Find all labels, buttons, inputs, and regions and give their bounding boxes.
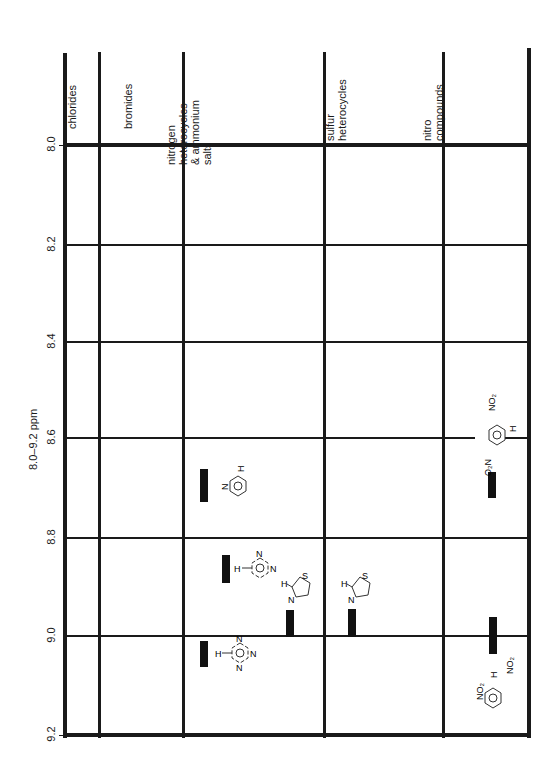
svg-text:N: N <box>256 549 263 559</box>
header-bromides: bromides <box>122 84 134 129</box>
pyridine-structure-icon: N H <box>216 466 256 506</box>
gridline-8-6a <box>63 437 475 439</box>
svg-text:S: S <box>302 571 308 581</box>
svg-text:H: H <box>215 649 222 659</box>
svg-text:NO₂: NO₂ <box>505 657 515 675</box>
svg-text:N: N <box>288 595 295 605</box>
header-chlorides: chlorides <box>66 85 78 129</box>
svg-text:O₂N: O₂N <box>483 459 493 476</box>
header-nitro: nitro compounds <box>421 84 445 141</box>
gridline-9-0 <box>63 635 529 637</box>
svg-text:H: H <box>341 579 348 589</box>
bar-pyridine <box>200 469 208 502</box>
svg-text:N: N <box>220 484 230 491</box>
svg-text:N: N <box>236 663 243 673</box>
header-nitrogen: nitrogen heterocycles & ammonium salts <box>165 100 213 165</box>
tick-8-4: 8.4 <box>45 329 57 353</box>
svg-text:NO₂: NO₂ <box>475 683 485 701</box>
svg-text:S: S <box>362 571 368 581</box>
tick-8-8: 8.8 <box>45 525 57 549</box>
svg-text:H: H <box>234 564 241 574</box>
dinitro-1-3-structure-icon: H NO₂ NO₂ <box>465 650 525 730</box>
tick-9-2: 9.2 <box>45 722 57 746</box>
svg-text:H: H <box>489 672 499 679</box>
tick-9-0: 9.0 <box>45 623 57 647</box>
svg-text:H: H <box>281 579 288 589</box>
thiazole-structure-icon-sulfur: S N H <box>340 565 380 615</box>
bar-dinitro-1-3 <box>489 617 497 654</box>
svg-text:N: N <box>250 649 257 659</box>
svg-text:N: N <box>348 595 355 605</box>
gridline-9-2 <box>63 733 531 737</box>
gridline-8-0 <box>63 143 531 147</box>
gridline-8-4 <box>63 341 529 343</box>
svg-text:NO₂: NO₂ <box>487 394 497 412</box>
svg-text:H: H <box>508 426 518 433</box>
header-sulfur: sulfur heterocycles <box>324 79 348 141</box>
gridline-8-8 <box>63 537 529 539</box>
svg-text:H: H <box>236 466 246 472</box>
tick-8-6: 8.6 <box>45 425 57 449</box>
bar-triazine <box>200 641 208 667</box>
thiazole-structure-icon-nitrogen: S N H <box>280 565 320 615</box>
gridline-8-2 <box>63 244 529 246</box>
svg-text:N: N <box>236 634 243 644</box>
dinitro-2-4-structure-icon: NO₂ H O₂N <box>470 380 528 490</box>
axis-title: 8.0–9.2 ppm <box>27 409 39 470</box>
tick-8-0: 8.0 <box>45 132 57 156</box>
tick-8-2: 8.2 <box>45 232 57 256</box>
svg-text:N: N <box>270 564 277 574</box>
bar-pyrimidine <box>222 555 230 583</box>
triazine-structure-icon: H N N N <box>215 633 265 673</box>
pyrimidine-structure-icon: H N N <box>232 548 282 588</box>
